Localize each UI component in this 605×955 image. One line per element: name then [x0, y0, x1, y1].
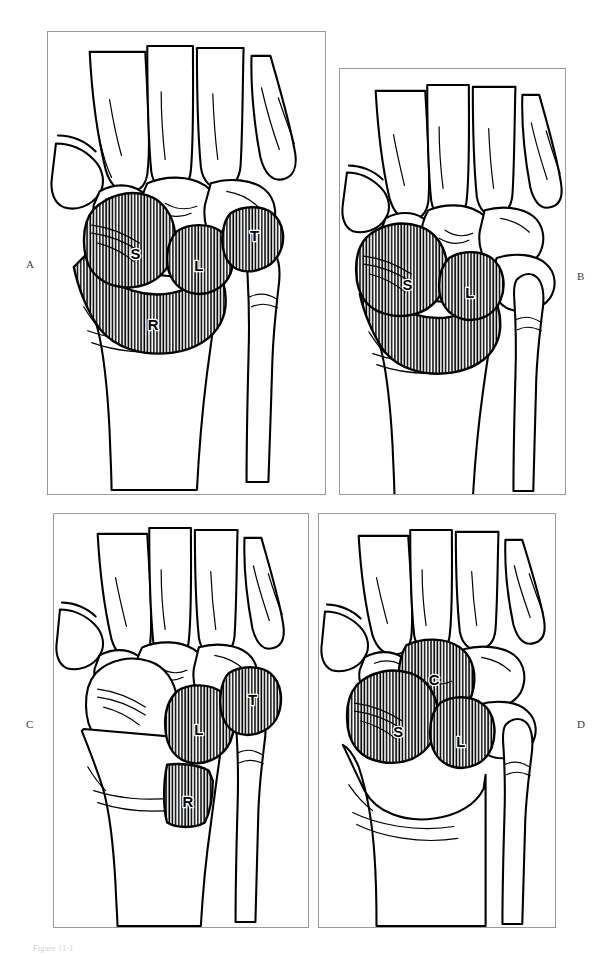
label-capitate: C — [429, 672, 440, 688]
metacarpals-group — [359, 530, 545, 655]
panel-a: R S L T — [47, 31, 326, 495]
label-triquetrum: T — [250, 228, 259, 244]
figure-root: R S L T A — [0, 0, 605, 955]
bone-lunate-hatched: L — [430, 697, 494, 768]
bone-scaphoid-hatched: S — [356, 224, 447, 316]
panel-d-illustration: C S L — [319, 514, 555, 927]
ulna — [513, 274, 543, 491]
ulna — [247, 247, 280, 482]
label-scaphoid: S — [393, 724, 403, 740]
panel-letter-b: B — [577, 270, 585, 282]
thumb-trapezium-group — [342, 166, 389, 233]
radius-shaft-unshaded — [343, 745, 486, 926]
metacarpals-group — [98, 528, 284, 660]
bone-triquetrum-hatched: T — [222, 207, 283, 271]
label-lunate: L — [456, 734, 465, 750]
bone-scaphoid-hatched: S — [84, 193, 175, 287]
figure-caption: Figure 11-1 — [33, 944, 74, 953]
bone-triquetrum-hatched: T — [220, 667, 281, 735]
panel-letter-d: D — [577, 718, 585, 730]
label-scaphoid: S — [130, 246, 140, 262]
bone-radius-hatched: R — [164, 764, 213, 827]
ulna — [502, 719, 532, 924]
thumb-trapezium-group — [51, 136, 103, 209]
label-radius: R — [183, 794, 194, 810]
label-lunate: L — [194, 722, 203, 738]
label-scaphoid: S — [402, 277, 412, 293]
panel-a-illustration: R S L T — [48, 32, 325, 494]
thumb-trapezium-group — [56, 603, 103, 670]
label-triquetrum: T — [248, 692, 257, 708]
panel-d: C S L — [318, 513, 556, 928]
panel-b-illustration: S L — [340, 69, 565, 494]
bone-scaphoid-hatched: S — [347, 671, 438, 763]
label-lunate: L — [465, 285, 474, 301]
panel-c-illustration: L T R — [54, 514, 308, 927]
ulna — [236, 705, 266, 922]
metacarpals-group — [376, 85, 562, 219]
label-lunate: L — [194, 258, 203, 274]
metacarpals-group — [90, 46, 296, 192]
bone-lunate-hatched: L — [439, 252, 503, 320]
panel-letter-a: A — [26, 258, 34, 270]
panel-c: L T R — [53, 513, 309, 928]
panel-b: S L — [339, 68, 566, 495]
panel-letter-c: C — [26, 718, 34, 730]
label-radius: R — [148, 317, 159, 333]
thumb-trapezium-group — [321, 605, 368, 672]
